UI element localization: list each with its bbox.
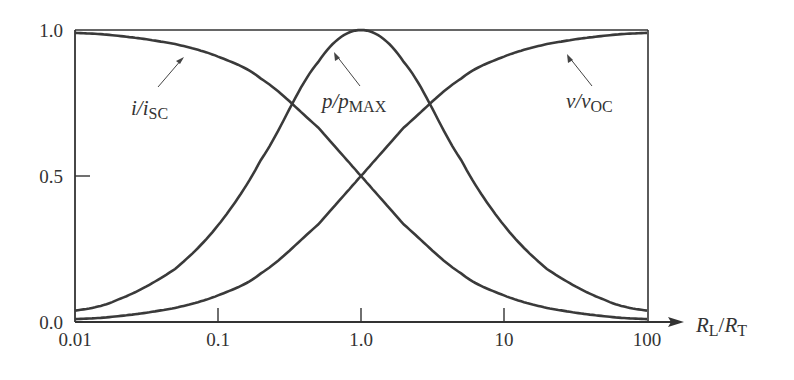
x-tick-label: 0.01 (58, 329, 91, 350)
x-tick-label: 1.0 (349, 329, 373, 350)
curve-v-voc (75, 33, 647, 319)
label-v-voc: v/vOC (566, 89, 613, 115)
x-ticks: 0.010.11.010100 (58, 308, 661, 350)
chart: 0.010.11.010100 0.00.51.0 i/iSC p/pMAX v… (0, 0, 794, 380)
y-tick-label: 0.5 (39, 166, 63, 187)
x-tick-label: 100 (633, 329, 662, 350)
x-tick-label: 0.1 (206, 329, 230, 350)
leader-v-voc (567, 54, 592, 86)
x-tick-label: 10 (495, 329, 514, 350)
y-ticks: 0.00.51.0 (39, 20, 90, 333)
label-p-pmax: p/pMAX (320, 89, 387, 115)
curve-p-pmax (75, 30, 647, 311)
arrowhead-icon (176, 57, 184, 64)
label-i-isc: i/iSC (131, 96, 168, 122)
leader-i-isc (158, 57, 184, 87)
leader-p-pmax (334, 52, 360, 86)
x-axis-title: RL/RT (695, 313, 747, 339)
y-tick-label: 0.0 (39, 312, 63, 333)
y-tick-label: 1.0 (39, 20, 63, 41)
